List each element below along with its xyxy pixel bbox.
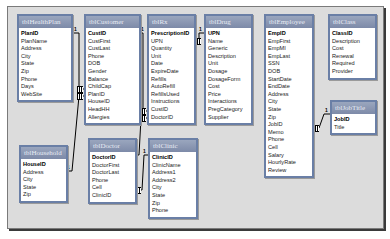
field[interactable]: PlanName	[21, 38, 71, 46]
field[interactable]: Renewal	[332, 53, 375, 61]
field[interactable]: Required	[332, 60, 375, 68]
field-primary-key[interactable]: ClinicID	[152, 154, 196, 162]
field[interactable]: Salary	[268, 152, 312, 160]
field[interactable]: Days	[21, 83, 71, 91]
field-primary-key[interactable]: DoctorID	[92, 154, 135, 162]
field[interactable]: ExpireDate	[151, 68, 194, 76]
table-job-title[interactable]: tblJobTitle JobID Title	[330, 100, 377, 135]
field[interactable]: Quantity	[151, 45, 194, 53]
table-title[interactable]: tblEmployee	[266, 16, 312, 28]
field[interactable]: Gender	[88, 68, 139, 76]
field[interactable]: CustID	[151, 106, 194, 114]
field[interactable]: UPN	[151, 38, 194, 46]
field[interactable]: CustFirst	[88, 38, 139, 46]
table-title[interactable]: tblJobTitle	[332, 102, 375, 114]
field[interactable]: Unit	[151, 53, 194, 61]
field[interactable]: Dosage	[208, 68, 251, 76]
field[interactable]: Refills	[151, 76, 194, 84]
table-title[interactable]: tblCustomer	[86, 16, 139, 28]
field[interactable]: Cost	[208, 83, 251, 91]
field[interactable]: Description	[332, 38, 375, 46]
field[interactable]: Title	[334, 124, 375, 132]
field-primary-key[interactable]: PrescriptionID	[151, 30, 194, 38]
field[interactable]: Address	[21, 45, 71, 53]
field-primary-key[interactable]: EmpID	[268, 30, 312, 38]
field[interactable]: Zip	[268, 114, 312, 122]
table-clinic[interactable]: tblClinic ClinicID ClinicName Address1 A…	[148, 138, 198, 219]
field-primary-key[interactable]: JobID	[334, 116, 375, 124]
field[interactable]: HouseID	[88, 98, 139, 106]
field[interactable]: DOB	[268, 68, 312, 76]
field[interactable]: Cell	[92, 184, 135, 192]
table-class[interactable]: tblClass ClassID Description Cost Renewa…	[328, 14, 377, 80]
field[interactable]: CustLast	[88, 45, 139, 53]
field[interactable]: PregCategory	[208, 106, 251, 114]
field[interactable]: Address2	[152, 177, 196, 185]
field[interactable]: Generic	[208, 45, 251, 53]
field[interactable]: Description	[208, 53, 251, 61]
field[interactable]: ClinicID	[92, 192, 135, 200]
field[interactable]: ClinicName	[152, 162, 196, 170]
field[interactable]: Phone	[88, 53, 139, 61]
field[interactable]: Instructions	[151, 98, 194, 106]
field[interactable]: Supplier	[208, 114, 251, 122]
field-primary-key[interactable]: ClassID	[332, 30, 375, 38]
field[interactable]: City	[152, 184, 196, 192]
field[interactable]: ChildCap	[88, 83, 139, 91]
field[interactable]: RefillsUsed	[151, 91, 194, 99]
field[interactable]: EmpLast	[268, 53, 312, 61]
field-primary-key[interactable]: CustID	[88, 30, 139, 38]
table-title[interactable]: tblHousehold	[21, 147, 66, 159]
field[interactable]: City	[268, 98, 312, 106]
field[interactable]: PlanID	[88, 91, 139, 99]
table-title[interactable]: tblHealthPlan	[19, 16, 71, 28]
field[interactable]: Address	[268, 91, 312, 99]
field[interactable]: AutoRefill	[151, 83, 194, 91]
table-customer[interactable]: tblCustomer CustID CustFirst CustLast Ph…	[84, 14, 141, 125]
field[interactable]: JobID	[268, 121, 312, 129]
field[interactable]: Date	[151, 60, 194, 68]
field[interactable]: EndDate	[268, 83, 312, 91]
table-household[interactable]: tblHousehold HouseID Address City State …	[19, 145, 68, 203]
table-doctor[interactable]: tblDoctor DoctorID DoctorFirst DoctorLas…	[88, 138, 137, 204]
field[interactable]: DosageForm	[208, 76, 251, 84]
field[interactable]: SSN	[268, 60, 312, 68]
field[interactable]: Phone	[21, 76, 71, 84]
field[interactable]: Address1	[152, 169, 196, 177]
table-title[interactable]: tblClass	[330, 16, 375, 28]
table-health-plan[interactable]: tblHealthPlan PlanID PlanName Address Ci…	[17, 14, 73, 102]
field[interactable]: DoctorFirst	[92, 162, 135, 170]
table-title[interactable]: tblDrug	[206, 16, 251, 28]
field[interactable]: Name	[208, 38, 251, 46]
table-title[interactable]: tblRx	[149, 16, 194, 28]
field[interactable]: City	[21, 53, 71, 61]
field[interactable]: Address	[23, 169, 66, 177]
field[interactable]: Zip	[23, 191, 66, 199]
field[interactable]: Balance	[88, 76, 139, 84]
field[interactable]: Zip	[21, 68, 71, 76]
field[interactable]: StartDate	[268, 76, 312, 84]
field[interactable]: Unit	[208, 60, 251, 68]
field[interactable]: Memo	[268, 129, 312, 137]
field[interactable]: State	[23, 184, 66, 192]
field[interactable]: Review	[268, 167, 312, 175]
field[interactable]: Phone	[92, 177, 135, 185]
field[interactable]: City	[23, 176, 66, 184]
field[interactable]: Interactions	[208, 98, 251, 106]
field[interactable]: Phone	[152, 207, 196, 215]
field[interactable]: Cell	[268, 144, 312, 152]
field[interactable]: State	[21, 60, 71, 68]
field[interactable]: State	[152, 192, 196, 200]
field[interactable]: Zip	[152, 200, 196, 208]
field[interactable]: State	[268, 106, 312, 114]
table-rx[interactable]: tblRx PrescriptionID UPN Quantity Unit D…	[147, 14, 196, 125]
field[interactable]: HourlyRate	[268, 159, 312, 167]
field[interactable]: HeadHH	[88, 106, 139, 114]
table-employee[interactable]: tblEmployee EmpID EmpFirst EmpMI EmpLast…	[264, 14, 314, 178]
field-primary-key[interactable]: PlanID	[21, 30, 71, 38]
field[interactable]: Price	[208, 91, 251, 99]
table-drug[interactable]: tblDrug UPN Name Generic Description Uni…	[204, 14, 253, 125]
table-title[interactable]: tblClinic	[150, 140, 196, 152]
table-title[interactable]: tblDoctor	[90, 140, 135, 152]
field[interactable]: Allergies	[88, 114, 139, 122]
